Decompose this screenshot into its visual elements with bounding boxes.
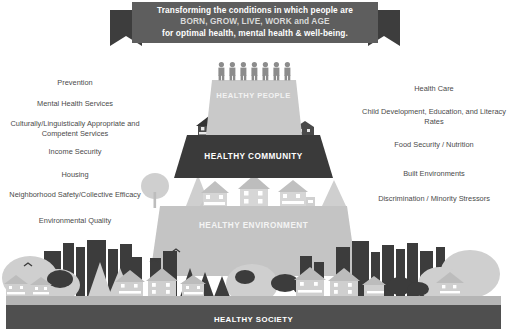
banner-ribbon: Transforming the conditions in which peo… [110, 2, 400, 48]
label-discrimination: Discrimination / Minority Stressors [361, 194, 507, 204]
health-pyramid-illustration [0, 0, 507, 336]
label-neighborhood-safety: Neighborhood Safety/Collective Efficacy [2, 190, 148, 200]
caption-healthy-society: HEALTHY SOCIETY [0, 315, 507, 324]
environment-houses [201, 175, 315, 206]
people-figures [218, 62, 290, 80]
infographic-canvas: Transforming the conditions in which peo… [0, 0, 507, 336]
label-child-development: Child Development, Education, and Litera… [361, 107, 507, 126]
label-mental-health-services: Mental Health Services [2, 99, 148, 109]
label-built-environments: Built Environments [361, 169, 507, 179]
label-housing: Housing [2, 170, 148, 180]
label-prevention: Prevention [2, 78, 148, 88]
caption-healthy-environment: HEALTHY ENVIRONMENT [0, 221, 507, 230]
ribbon-shape [110, 2, 400, 48]
ground-strip [6, 296, 501, 305]
caption-healthy-community: HEALTHY COMMUNITY [0, 152, 507, 161]
caption-healthy-people: HEALTHY PEOPLE [0, 91, 507, 100]
tier-healthy-people [206, 80, 302, 135]
label-culturally-competent-services: Culturally/Linguistically Appropriate an… [2, 119, 148, 138]
ribbon-body [132, 2, 378, 43]
label-food-security: Food Security / Nutrition [361, 140, 507, 150]
